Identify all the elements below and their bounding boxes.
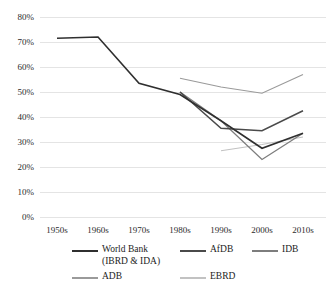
legend-label-idb: IDB	[282, 244, 298, 255]
legend-swatch-adb	[72, 277, 98, 279]
series-line-afdb	[180, 92, 303, 131]
legend-swatch-world-bank	[72, 250, 98, 252]
series-line-idb	[180, 92, 303, 160]
legend-swatch-ebrd	[180, 277, 206, 279]
legend-swatch-idb	[252, 250, 278, 252]
legend-label-world-bank-line2: (IBRD & IDA)	[102, 256, 160, 267]
chart-legend: World Bank (IBRD & IDA) AfDB IDB ADB EBR…	[0, 242, 332, 294]
series-line-adb	[180, 75, 303, 94]
legend-label-world-bank: World Bank	[102, 244, 148, 255]
legend-label-afdb: AfDB	[210, 244, 233, 255]
line-chart: 80% 70% 60% 50% 40% 30% 20% 10% 0% 1950s…	[0, 0, 332, 294]
legend-label-adb: ADB	[102, 271, 122, 282]
legend-label-ebrd: EBRD	[210, 271, 235, 282]
legend-swatch-afdb	[180, 250, 206, 252]
